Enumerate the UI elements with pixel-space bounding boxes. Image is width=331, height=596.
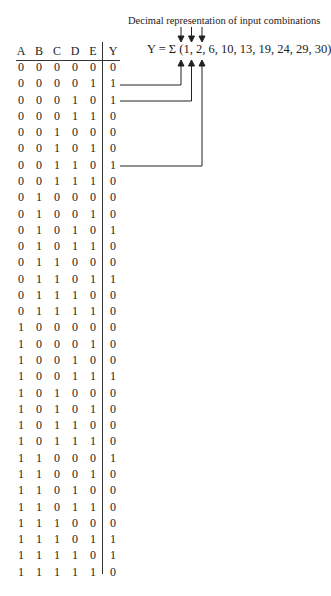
down-arrow-icon [178, 27, 205, 42]
arrow-connectors [0, 0, 331, 596]
up-arrow-connector-icon [120, 60, 205, 166]
